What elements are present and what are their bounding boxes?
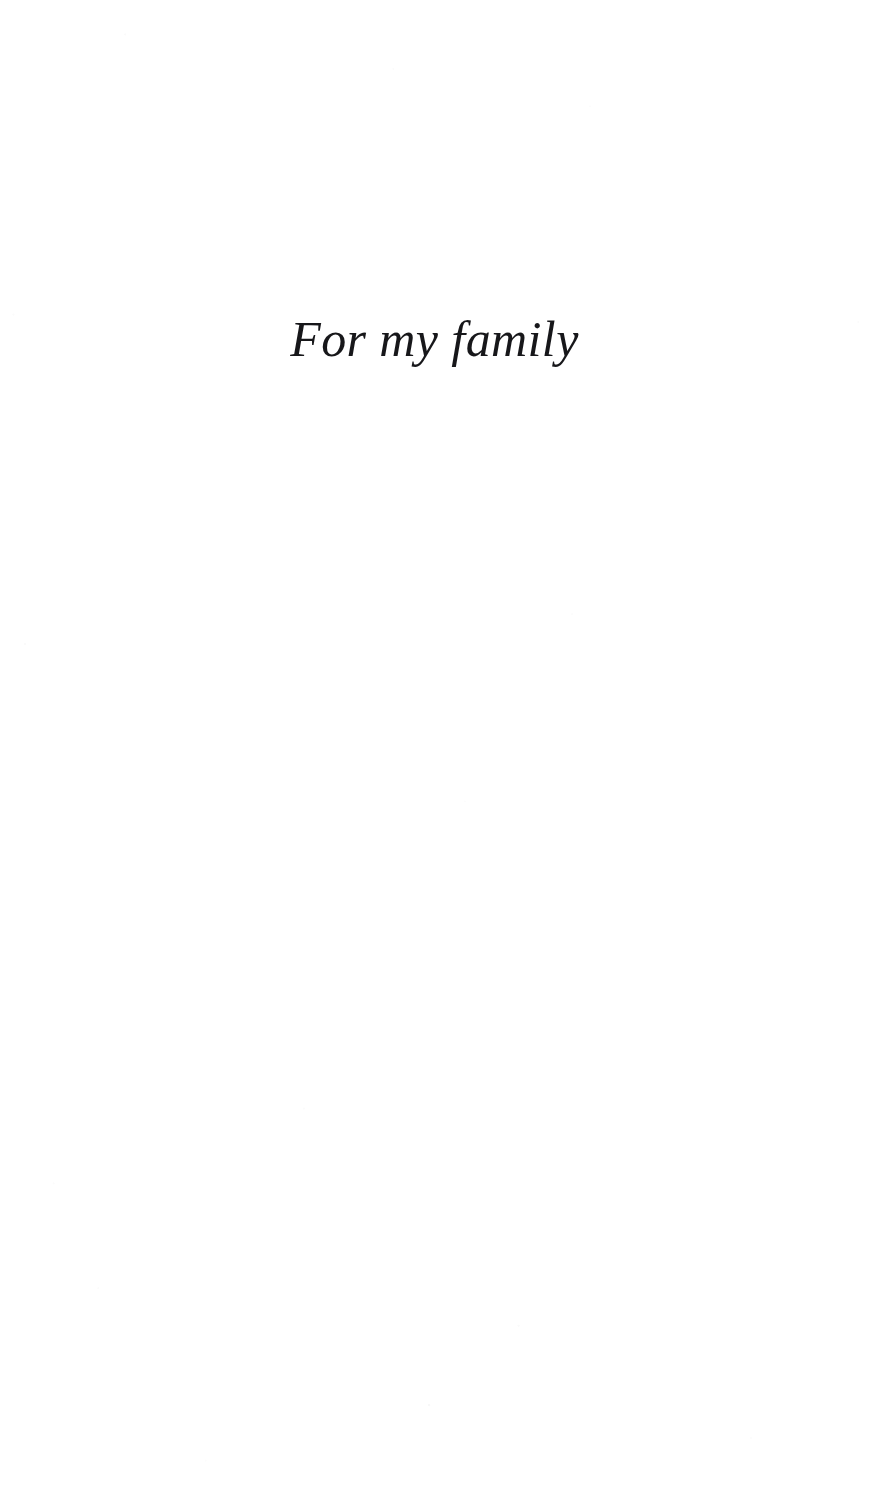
dedication-text: For my family	[290, 306, 578, 372]
dedication-page: For my family	[0, 0, 894, 1498]
scan-grain-overlay	[0, 0, 894, 1498]
dedication-block: For my family	[0, 306, 894, 372]
